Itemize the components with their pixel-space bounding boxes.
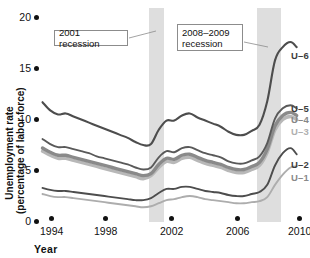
y-axis-title-line2: (percentage of labor force) — [15, 87, 26, 214]
recession-2008-2009-callout: 2008–2009 recession — [177, 24, 243, 51]
y-tick-label-20: 20 — [14, 12, 31, 23]
y-tick-15: 15 — [14, 63, 39, 74]
x-tick-label-1998: 1998 — [94, 226, 117, 237]
leader-line-2001 — [129, 31, 156, 38]
x-tick-label-2002: 2002 — [160, 226, 183, 237]
y-tick-dot — [34, 117, 39, 122]
x-tick-label-1994: 1994 — [40, 226, 63, 237]
y-axis-title-line1: Unemployment rate — [4, 106, 15, 199]
y-tick-label-15: 15 — [14, 63, 31, 74]
x-tick-1998: 1998 — [94, 216, 117, 237]
y-tick-dot — [34, 219, 39, 224]
y-tick-dot — [34, 15, 39, 20]
y-tick-label-0: 0 — [14, 216, 31, 227]
x-tick-dot — [49, 216, 54, 221]
x-tick-2010: 2010 — [288, 216, 310, 237]
series-label-u3: U–3 — [291, 127, 309, 137]
series-line-u-1 — [43, 166, 297, 207]
x-tick-dot — [169, 216, 174, 221]
x-tick-dot — [103, 216, 108, 221]
x-tick-2006: 2006 — [226, 216, 249, 237]
x-tick-1994: 1994 — [40, 216, 63, 237]
y-tick-20: 20 — [14, 12, 39, 23]
series-label-u2: U–2 — [291, 160, 309, 170]
recession-2001-callout-text: 2001 recession — [59, 27, 123, 49]
series-line-u-6 — [43, 42, 297, 146]
y-tick-dot — [34, 168, 39, 173]
x-tick-label-2006: 2006 — [226, 226, 249, 237]
y-axis-title: Unemployment rate (percentage of labor f… — [4, 92, 26, 214]
y-tick-0: 0 — [14, 216, 39, 227]
y-tick-dot — [34, 66, 39, 71]
chart-root: 20 15 10 5 0 1994 1998 2002 2006 2010 Ye… — [0, 0, 310, 258]
series-label-u4: U–4 — [291, 115, 309, 125]
recession-2001-callout: 2001 recession — [54, 30, 128, 46]
x-tick-2002: 2002 — [160, 216, 183, 237]
x-axis-title: Year — [34, 243, 58, 255]
leader-line-2008 — [244, 42, 268, 47]
x-tick-dot — [235, 216, 240, 221]
x-tick-label-2010: 2010 — [288, 226, 310, 237]
x-tick-dot — [297, 216, 302, 221]
series-label-u5: U–5 — [291, 104, 309, 114]
series-label-u1: U–1 — [291, 173, 309, 183]
recession-2008-2009-callout-line1: 2008–2009 — [182, 27, 238, 38]
series-label-u6: U–6 — [291, 51, 309, 61]
recession-2008-2009-callout-line2: recession — [182, 38, 238, 49]
